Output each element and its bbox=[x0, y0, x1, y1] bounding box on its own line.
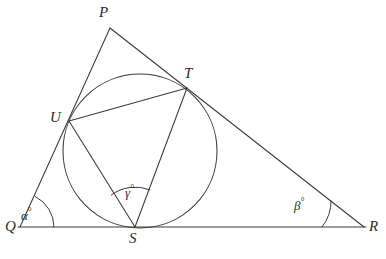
vertex-label-P: P bbox=[99, 5, 108, 20]
vertex-label-S: S bbox=[129, 231, 137, 246]
figure-canvas bbox=[0, 0, 386, 259]
degree-mark-alpha: ° bbox=[28, 206, 32, 217]
vertex-label-Q: Q bbox=[5, 219, 16, 234]
vertex-label-U: U bbox=[50, 110, 61, 125]
angle-label-alpha: α° bbox=[21, 207, 32, 222]
angle-arc-alpha bbox=[35, 197, 54, 227]
vertex-label-R: R bbox=[369, 219, 378, 234]
chord-US bbox=[69, 121, 135, 227]
angle-arc-beta bbox=[322, 201, 331, 227]
side-PQ bbox=[20, 28, 110, 227]
side-PR bbox=[110, 28, 364, 227]
incircle bbox=[63, 74, 217, 228]
chord-UT bbox=[69, 88, 187, 121]
degree-mark-gamma: ° bbox=[130, 183, 134, 194]
angle-label-gamma: γ° bbox=[125, 184, 134, 199]
angle-symbol-alpha: α bbox=[21, 208, 28, 223]
vertex-label-T: T bbox=[184, 66, 192, 81]
angle-label-beta: β° bbox=[294, 197, 304, 212]
degree-mark-beta: ° bbox=[300, 196, 304, 207]
chord-ST bbox=[135, 88, 187, 227]
geometry-diagram: P Q R S T U α° β° γ° bbox=[0, 0, 386, 259]
